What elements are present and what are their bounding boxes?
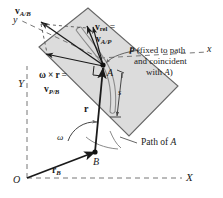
label-path-of-a: Path of A	[141, 137, 176, 147]
omega-rotation-arc	[68, 122, 97, 141]
label-point-B: B	[93, 157, 99, 168]
relative-motion-figure: vA/B vrel = vA/P ω × r = vP/B r rB ω s A…	[0, 0, 223, 198]
p-note-text-line2: and coincident	[134, 57, 187, 67]
r-symbol: r	[55, 70, 59, 80]
label-s-dimension: s	[118, 88, 121, 97]
label-omega-cross-r: ω × r =	[39, 70, 67, 81]
label-axis-X-fixed: X	[186, 172, 193, 184]
v-P-over-B-subscript: P/B	[49, 88, 60, 95]
label-v-P-over-B: vP/B	[44, 84, 59, 95]
label-origin-O: O	[13, 175, 20, 186]
label-r-B-vector: rB	[52, 165, 61, 176]
vector-r-B	[27, 152, 95, 178]
label-axis-x-rotating: x	[207, 44, 211, 55]
r-B-subscript: B	[56, 169, 61, 176]
omega-cross-r-equals: =	[62, 70, 67, 80]
v-A-over-P-subscript: A/P	[101, 38, 112, 45]
path-of-a-leader	[120, 137, 137, 143]
label-axis-y-rotating: y	[13, 15, 17, 26]
label-axis-Y-fixed: Y	[18, 78, 24, 90]
label-omega-angle: ω	[57, 133, 63, 143]
v-A-over-B-subscript: A/B	[20, 10, 31, 17]
label-v-rel: vrel =	[95, 22, 115, 33]
label-v-A-over-P: vA/P	[96, 34, 111, 45]
label-point-A: A	[107, 68, 113, 79]
path-of-a-extension	[86, 131, 121, 149]
point-B-marker	[92, 149, 97, 154]
label-r-vector: r	[84, 104, 88, 115]
point-A-marker	[100, 62, 105, 67]
p-note-text-line3: with A)	[146, 68, 173, 78]
p-note-text-line1: P (fixed to path	[129, 46, 185, 56]
v-rel-equals: =	[110, 22, 115, 32]
omega-symbol: ω	[39, 70, 46, 80]
